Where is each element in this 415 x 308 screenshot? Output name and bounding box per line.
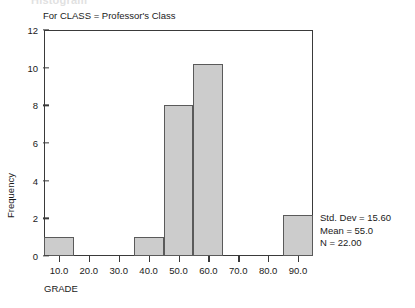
x-tick-mark (268, 256, 269, 262)
histogram-bar (193, 64, 223, 256)
y-tick-mark (43, 142, 49, 143)
y-axis-tick-marks (10, 30, 50, 256)
y-tick-mark (43, 180, 49, 181)
x-tick-mark (149, 256, 150, 262)
histogram-bar (164, 105, 194, 256)
y-axis-title: Frequency (5, 161, 16, 231)
x-tick-label: 40.0 (139, 265, 158, 276)
x-tick-label: 10.0 (50, 265, 69, 276)
chart-subtitle: For CLASS = Professor's Class (43, 10, 175, 21)
statistics-annotation: Std. Dev = 15.60 Mean = 55.0 N = 22.00 (320, 212, 391, 250)
x-tick-mark (119, 256, 120, 262)
y-tick-mark (43, 218, 49, 219)
histogram-bar (134, 237, 164, 256)
x-tick-mark (179, 256, 180, 262)
y-tick-mark (43, 105, 49, 106)
clipped-header-text: Histogram (31, 0, 87, 6)
x-tick-mark (59, 256, 60, 262)
x-tick-label: 50.0 (169, 265, 188, 276)
y-tick-mark (43, 67, 49, 68)
x-axis-title: GRADE (44, 283, 78, 294)
x-tick-mark (298, 256, 299, 262)
n-text: N = 22.00 (320, 237, 391, 250)
x-tick-label: 60.0 (199, 265, 218, 276)
x-tick-label: 80.0 (259, 265, 278, 276)
x-tick-label: 90.0 (289, 265, 308, 276)
mean-text: Mean = 55.0 (320, 225, 391, 238)
histogram-bar (283, 215, 313, 256)
histogram-figure: Histogram For CLASS = Professor's Class … (0, 0, 415, 308)
y-tick-mark (43, 29, 49, 30)
x-tick-label: 70.0 (229, 265, 248, 276)
std-dev-text: Std. Dev = 15.60 (320, 212, 391, 225)
x-tick-mark (89, 256, 90, 262)
x-axis-ticks: 10.020.030.040.050.060.070.080.090.0 (44, 256, 313, 282)
x-tick-label: 20.0 (80, 265, 99, 276)
bars-layer (44, 30, 313, 256)
x-tick-mark (208, 256, 209, 262)
x-tick-mark (238, 256, 239, 262)
x-tick-label: 30.0 (109, 265, 128, 276)
